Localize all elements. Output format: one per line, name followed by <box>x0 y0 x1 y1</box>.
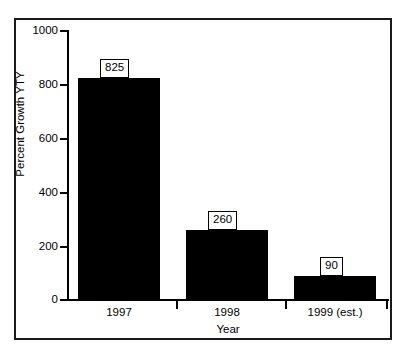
y-tick-mark-600 <box>60 138 69 140</box>
y-tick-label-0: 0 <box>6 294 58 306</box>
y-tick-label-200: 200 <box>6 241 58 253</box>
y-axis-title: Percent Growth YTY <box>14 24 26 224</box>
data-label-1997: 825 <box>100 59 129 78</box>
y-tick-mark-800 <box>60 84 69 86</box>
y-tick-mark-200 <box>60 246 69 248</box>
x-axis-title: Year <box>68 323 388 335</box>
y-tick-mark-400 <box>60 192 69 194</box>
x-tick-label-1998: 1998 <box>187 307 267 319</box>
y-tick-mark-0 <box>60 299 69 301</box>
x-tick-label-1997: 1997 <box>79 307 159 319</box>
bar-1998 <box>186 230 268 300</box>
bar-1997 <box>78 78 160 300</box>
x-tick-label-1999-est: 1999 (est.) <box>285 307 385 319</box>
y-axis-line <box>67 30 69 301</box>
bar-chart-figure: 1000 800 600 400 200 0 825 260 90 1997 1… <box>0 0 411 356</box>
x-tick-mark-left <box>176 300 178 309</box>
y-tick-mark-1000 <box>60 30 69 32</box>
bar-1999-est <box>294 276 376 300</box>
data-label-1999-est: 90 <box>320 257 343 276</box>
data-label-1998: 260 <box>208 211 237 230</box>
x-tick-mark-end <box>386 300 388 309</box>
